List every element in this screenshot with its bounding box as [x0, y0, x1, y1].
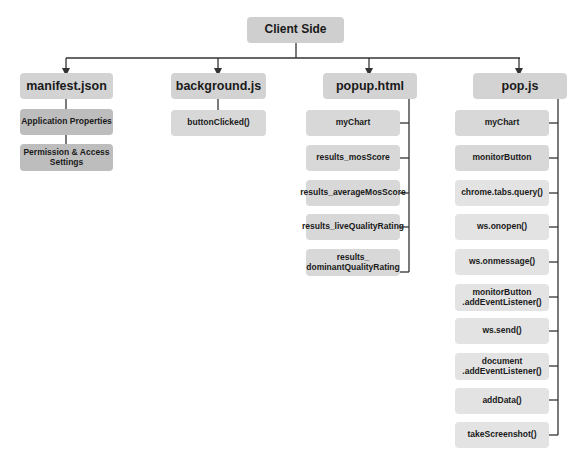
node-add-data: addData() — [455, 388, 549, 414]
node-background-js: background.js — [171, 73, 266, 99]
node-monitor-button: monitorButton — [455, 145, 549, 171]
node-monitorbutton-addeventlistener: monitorButton .addEventListener() — [455, 284, 549, 311]
node-results-mosscore: results_mosScore — [306, 145, 400, 171]
node-results-averagemosscore: results_averageMosScore — [306, 180, 400, 206]
node-ws-send: ws.send() — [455, 318, 549, 344]
node-application-properties: Application Properties — [20, 109, 113, 135]
node-button-clicked: buttonClicked() — [171, 110, 266, 136]
node-popjs-mychart: myChart — [455, 110, 549, 136]
node-take-screenshot: takeScreenshot() — [455, 422, 549, 448]
node-results-livequalityrating: results_liveQualityRating — [306, 214, 400, 240]
node-ws-onmessage: ws.onmessage() — [455, 249, 549, 275]
node-manifest-json: manifest.json — [20, 73, 113, 99]
node-permission-access-settings: Permission & Access Settings — [20, 144, 113, 171]
node-chrome-tabs-query: chrome.tabs.query() — [455, 180, 549, 206]
node-ws-onopen: ws.onopen() — [455, 214, 549, 240]
node-pop-js: pop.js — [473, 73, 567, 99]
node-client-side: Client Side — [247, 17, 344, 43]
node-popup-mychart: myChart — [306, 110, 400, 136]
node-document-addeventlistener: document .addEventListener() — [455, 353, 549, 380]
node-results-dominantqualityrating: results_ dominantQualityRating — [306, 249, 400, 276]
node-popup-html: popup.html — [323, 73, 417, 99]
